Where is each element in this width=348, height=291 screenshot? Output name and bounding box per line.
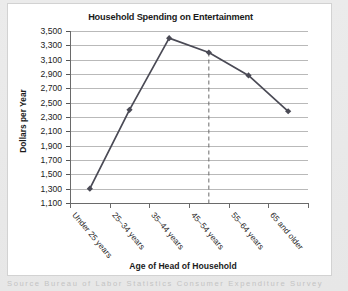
source-caption: Source Bureau of Labor Statistics Consum…	[7, 279, 332, 289]
x-axis-tick-mark	[268, 203, 269, 208]
x-axis-tick-mark	[229, 203, 230, 208]
y-axis-tick-label: 1,500	[24, 169, 62, 179]
x-axis-tick-label: 55–64 years	[229, 210, 266, 251]
x-axis-tick-label: 65 and older	[268, 210, 305, 252]
x-axis-tick-mark	[149, 203, 150, 208]
y-axis-tick-label: 2,300	[24, 112, 62, 122]
y-axis-tick-label: 2,500	[24, 98, 62, 108]
y-axis-tick-label: 1,700	[24, 155, 62, 165]
y-axis-tick-label: 3,500	[24, 26, 62, 36]
x-axis-tick-mark	[70, 203, 71, 208]
y-axis-tick-label: 1,100	[24, 198, 62, 208]
x-axis-tick-label: 45–54 years	[189, 210, 226, 251]
x-axis-title: Age of Head of Household	[48, 261, 318, 271]
series-line	[90, 38, 288, 189]
x-axis-tick-mark	[189, 203, 190, 208]
y-axis-tick-label: 1,900	[24, 141, 62, 151]
figure-root: Household Spending on Entertainment Doll…	[0, 0, 348, 291]
x-axis-tick-label: 35–44 years	[149, 210, 186, 251]
y-axis-tick-label: 3,300	[24, 40, 62, 50]
chart-card: Household Spending on Entertainment Doll…	[7, 3, 332, 276]
y-axis-tick-label: 2,900	[24, 69, 62, 79]
chart-title: Household Spending on Entertainment	[8, 12, 333, 22]
data-point-marker	[87, 186, 93, 192]
x-axis-tick-mark	[110, 203, 111, 208]
x-axis-tick-label: 25–34 years	[110, 210, 147, 251]
y-axis-tick-label: 2,100	[24, 126, 62, 136]
y-axis-tick-label: 2,700	[24, 83, 62, 93]
y-axis-tick-label: 1,300	[24, 184, 62, 194]
x-axis-tick-mark	[308, 203, 309, 208]
y-axis-tick-label: 3,100	[24, 55, 62, 65]
data-series-layer	[70, 31, 308, 203]
x-axis-tick-label: Under 25 years	[70, 210, 114, 260]
